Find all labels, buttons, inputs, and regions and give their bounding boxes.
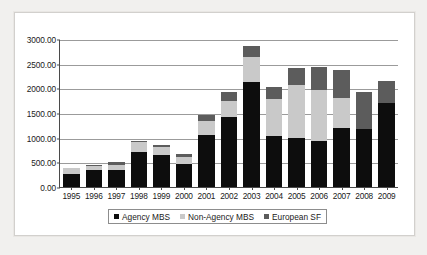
y-axis-tick-label: 500.00: [31, 158, 56, 168]
x-axis-tick: [71, 187, 72, 190]
bar-series-container: 1995199619971998199920002001200220032004…: [60, 40, 398, 187]
y-axis-tick-label: 2500.00: [27, 60, 56, 70]
bar-segment-non-agency-mbs: [288, 85, 305, 137]
bar-group[interactable]: 1998: [131, 40, 148, 187]
stacked-bar-chart: 0.00500.001000.001500.002000.002500.0030…: [15, 13, 414, 235]
bar-segment-agency-mbs: [333, 128, 350, 187]
bar-group[interactable]: 2001: [198, 40, 215, 187]
bar-segment-agency-mbs: [266, 136, 283, 187]
x-axis-tick-label: 2005: [288, 191, 306, 201]
x-axis-tick-label: 2004: [265, 191, 283, 201]
x-axis-tick-label: 1996: [85, 191, 103, 201]
bar-group[interactable]: 1997: [108, 40, 125, 187]
bar-group[interactable]: 2000: [176, 40, 193, 187]
y-axis-tick: [57, 188, 60, 189]
x-axis-tick-label: 2006: [310, 191, 328, 201]
bar-segment-non-agency-mbs: [243, 57, 260, 83]
bar-segment-agency-mbs: [176, 164, 193, 187]
x-axis-tick: [229, 187, 230, 190]
bar-segment-european-sf: [333, 70, 350, 98]
bar-group[interactable]: 2003: [243, 40, 260, 187]
bar-segment-european-sf: [221, 92, 238, 101]
bar-segment-agency-mbs: [288, 138, 305, 187]
bar-segment-agency-mbs: [63, 174, 80, 187]
bar-segment-european-sf: [243, 46, 260, 57]
bar-segment-european-sf: [356, 92, 373, 129]
bar-segment-agency-mbs: [198, 135, 215, 187]
bar-group[interactable]: 2004: [266, 40, 283, 187]
bar-segment-european-sf: [288, 68, 305, 85]
x-axis-tick-label: 2008: [355, 191, 373, 201]
x-axis-tick: [116, 187, 117, 190]
chart-plate: 0.00500.001000.001500.002000.002500.0030…: [14, 12, 415, 236]
x-axis-tick: [364, 187, 365, 190]
y-axis-tick-label: 0.00: [40, 183, 56, 193]
bar-segment-agency-mbs: [221, 117, 238, 187]
x-axis-tick: [161, 187, 162, 190]
x-axis-tick: [252, 187, 253, 190]
x-axis-tick: [387, 187, 388, 190]
x-axis-tick: [319, 187, 320, 190]
bar-segment-european-sf: [311, 67, 328, 90]
bar-group[interactable]: 2005: [288, 40, 305, 187]
y-axis-tick-label: 1000.00: [27, 134, 56, 144]
bar-segment-agency-mbs: [378, 103, 395, 187]
bar-group[interactable]: 2007: [333, 40, 350, 187]
x-axis-tick-label: 1999: [153, 191, 171, 201]
chart-legend: Agency MBSNon-Agency MBSEuropean SF: [108, 209, 327, 224]
x-axis-tick-label: 1995: [62, 191, 80, 201]
x-axis-tick-label: 1997: [107, 191, 125, 201]
bar-segment-agency-mbs: [131, 152, 148, 187]
x-axis-tick-label: 2009: [378, 191, 396, 201]
legend-item[interactable]: European SF: [264, 212, 321, 222]
bar-group[interactable]: 1995: [63, 40, 80, 187]
bar-group[interactable]: 2006: [311, 40, 328, 187]
bar-group[interactable]: 2008: [356, 40, 373, 187]
bar-segment-agency-mbs: [243, 82, 260, 187]
x-axis-tick: [274, 187, 275, 190]
legend-label: Agency MBS: [122, 212, 170, 222]
bar-segment-agency-mbs: [311, 141, 328, 187]
x-axis-tick-label: 2007: [333, 191, 351, 201]
bar-segment-agency-mbs: [356, 129, 373, 187]
x-axis-tick: [342, 187, 343, 190]
chart-figure: 0.00500.001000.001500.002000.002500.0030…: [0, 0, 427, 255]
x-axis-tick: [297, 187, 298, 190]
x-axis-tick: [94, 187, 95, 190]
bar-segment-non-agency-mbs: [221, 101, 238, 117]
x-axis-tick: [206, 187, 207, 190]
bar-segment-agency-mbs: [86, 170, 103, 187]
x-axis-tick: [184, 187, 185, 190]
bar-group[interactable]: 1999: [153, 40, 170, 187]
x-axis-tick-label: 2003: [243, 191, 261, 201]
bar-segment-non-agency-mbs: [153, 147, 170, 155]
legend-swatch-icon: [264, 214, 269, 219]
bar-group[interactable]: 2002: [221, 40, 238, 187]
bar-segment-non-agency-mbs: [176, 157, 193, 164]
bar-group[interactable]: 2009: [378, 40, 395, 187]
bar-segment-non-agency-mbs: [198, 121, 215, 135]
plot-area: 0.00500.001000.001500.002000.002500.0030…: [59, 40, 398, 188]
bar-group[interactable]: 1996: [86, 40, 103, 187]
bar-segment-european-sf: [266, 87, 283, 99]
x-axis-tick-label: 2000: [175, 191, 193, 201]
bar-segment-non-agency-mbs: [311, 90, 328, 141]
x-axis-tick-label: 2001: [198, 191, 216, 201]
y-axis-tick-label: 3000.00: [27, 35, 56, 45]
legend-item[interactable]: Agency MBS: [114, 212, 170, 222]
bar-segment-non-agency-mbs: [266, 99, 283, 136]
x-axis-tick: [139, 187, 140, 190]
x-axis-tick-label: 2002: [220, 191, 238, 201]
bar-segment-european-sf: [378, 81, 395, 103]
bar-segment-agency-mbs: [153, 155, 170, 187]
legend-label: Non-Agency MBS: [188, 212, 254, 222]
legend-item[interactable]: Non-Agency MBS: [180, 212, 254, 222]
y-axis-tick-label: 1500.00: [27, 109, 56, 119]
bar-segment-agency-mbs: [108, 170, 125, 187]
bar-segment-non-agency-mbs: [333, 98, 350, 129]
x-axis-tick-label: 1998: [130, 191, 148, 201]
y-axis-tick-label: 2000.00: [27, 84, 56, 94]
legend-swatch-icon: [114, 214, 119, 219]
legend-label: European SF: [272, 212, 321, 222]
legend-swatch-icon: [180, 214, 185, 219]
